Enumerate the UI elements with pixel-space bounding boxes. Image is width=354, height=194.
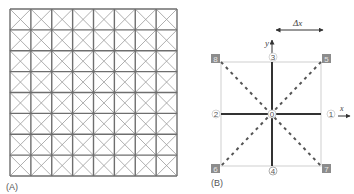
- x-axis-label: x: [339, 104, 344, 113]
- node-4-label: 4: [271, 167, 276, 176]
- y-axis-label: y: [264, 38, 269, 48]
- panel-b-label: (B): [211, 178, 223, 188]
- node-5-label: 5: [324, 55, 329, 64]
- node-3-label: 3: [271, 53, 276, 62]
- node-8-label: 8: [213, 55, 218, 64]
- lattice-grid: [10, 9, 177, 176]
- node-1-label: 1: [329, 110, 334, 119]
- node-0-label: 0: [270, 110, 275, 119]
- delta-x-label: Δx: [292, 18, 302, 28]
- panel-a-label: (A): [6, 182, 18, 192]
- node-7-label: 7: [324, 165, 329, 174]
- figure: (A) Δx y x 0 1 2 3 4 5: [0, 0, 354, 194]
- node-2-label: 2: [214, 110, 219, 119]
- d2q9-stencil: Δx y x 0 1 2 3 4 5 6 7 8: [211, 18, 350, 176]
- node-6-label: 6: [213, 165, 218, 174]
